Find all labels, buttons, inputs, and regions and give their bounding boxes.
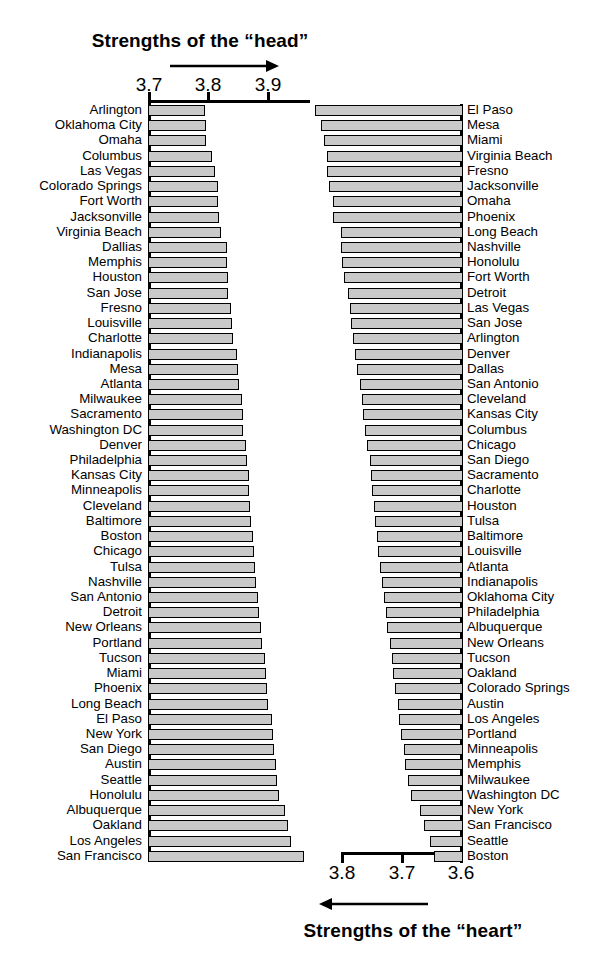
heart-row-label: Phoenix [467, 209, 613, 224]
heart-bar [399, 714, 463, 725]
head-row-label: San Diego [0, 741, 142, 756]
heart-bar [375, 516, 463, 527]
head-bar [148, 105, 205, 116]
head-bar [148, 257, 227, 268]
heart-bar [405, 759, 463, 770]
head-row-label: Minneapolis [0, 482, 142, 497]
heart-row-label: Honolulu [467, 254, 613, 269]
head-bar [148, 485, 249, 496]
head-bar [148, 470, 249, 481]
head-row-label: El Paso [0, 711, 142, 726]
heart-bar [348, 288, 463, 299]
head-row-label: Dallias [0, 239, 142, 254]
heart-bar [362, 394, 463, 405]
head-row-label: Sacramento [0, 406, 142, 421]
head-row-label: Fort Worth [0, 193, 142, 208]
head-row-label: Phoenix [0, 680, 142, 695]
heart-bar [333, 212, 463, 223]
head-bar [148, 501, 250, 512]
head-row-label: Seattle [0, 772, 142, 787]
head-bar [148, 683, 267, 694]
head-row-label: Atlanta [0, 376, 142, 391]
head-row-label: Cleveland [0, 498, 142, 513]
heart-bar [395, 683, 463, 694]
head-bar [148, 425, 243, 436]
head-row-label: Memphis [0, 254, 142, 269]
head-row-label: Indianapolis [0, 346, 142, 361]
heart-row-label: Tulsa [467, 513, 613, 528]
heart-bar [365, 425, 463, 436]
heart-bar [353, 333, 463, 344]
heart-bar [386, 607, 463, 618]
heart-bar [392, 653, 463, 664]
heart-bar [380, 562, 463, 573]
heart-row-label: San Antonio [467, 376, 613, 391]
head-row-label: Houston [0, 269, 142, 284]
heart-row-label: Indianapolis [467, 574, 613, 589]
heart-row-label: Tucson [467, 650, 613, 665]
heart-bar [408, 775, 463, 786]
heart-row-label: New Orleans [467, 635, 613, 650]
head-axis-title: Strengths of the “head” [0, 30, 400, 52]
head-row-label: Charlotte [0, 330, 142, 345]
head-row-label: Denver [0, 437, 142, 452]
head-bar [148, 744, 274, 755]
head-bar [148, 592, 258, 603]
head-bar [148, 151, 212, 162]
heart-row-label: Omaha [467, 193, 613, 208]
heart-row-label: Portland [467, 726, 613, 741]
heart-row-label: Mesa [467, 117, 613, 132]
heart-row-label: Albuquerque [467, 619, 613, 634]
heart-bar [341, 227, 463, 238]
chart-row: San FranciscoBoston [0, 850, 613, 865]
heart-bar [371, 470, 463, 481]
heart-bar [360, 379, 463, 390]
heart-row-label: Philadelphia [467, 604, 613, 619]
heart-row-label: San Diego [467, 452, 613, 467]
head-row-label: Honolulu [0, 787, 142, 802]
head-bar [148, 409, 243, 420]
heart-row-label: Louisville [467, 543, 613, 558]
head-row-label: Oakland [0, 817, 142, 832]
head-bar [148, 577, 256, 588]
head-row-label: San Jose [0, 285, 142, 300]
heart-bar [377, 531, 463, 542]
heart-row-label: San Jose [467, 315, 613, 330]
heart-bar [398, 699, 463, 710]
heart-bar [411, 790, 463, 801]
heart-row-label: Chicago [467, 437, 613, 452]
head-row-label: Washington DC [0, 422, 142, 437]
heart-axis-title: Strengths of the “heart” [213, 920, 613, 942]
head-row-label: New York [0, 726, 142, 741]
head-row-label: Mesa [0, 361, 142, 376]
heart-bar [370, 455, 463, 466]
head-direction-arrow-icon [170, 58, 280, 74]
heart-bar [390, 638, 463, 649]
heart-bar [327, 151, 463, 162]
heart-row-label: Las Vegas [467, 300, 613, 315]
head-bar [148, 455, 247, 466]
heart-bar [404, 744, 464, 755]
head-row-label: Boston [0, 528, 142, 543]
top-tick-label-3-7: 3.7 [126, 74, 172, 96]
head-row-label: Long Beach [0, 696, 142, 711]
head-bar [148, 562, 255, 573]
heart-row-label: Boston [467, 848, 613, 863]
head-bar [148, 820, 288, 831]
heart-bar [434, 851, 463, 862]
head-row-label: Jacksonville [0, 209, 142, 224]
head-bar [148, 531, 253, 542]
heart-row-label: Charlotte [467, 482, 613, 497]
heart-bar [367, 440, 463, 451]
head-bar [148, 379, 239, 390]
heart-row-label: Sacramento [467, 467, 613, 482]
head-row-label: Tulsa [0, 559, 142, 574]
heart-bar [424, 820, 463, 831]
head-row-label: Tucson [0, 650, 142, 665]
head-bar [148, 303, 231, 314]
heart-row-label: Detroit [467, 285, 613, 300]
head-row-label: Austin [0, 756, 142, 771]
head-bar [148, 166, 215, 177]
heart-row-label: Baltimore [467, 528, 613, 543]
head-bar [148, 790, 279, 801]
